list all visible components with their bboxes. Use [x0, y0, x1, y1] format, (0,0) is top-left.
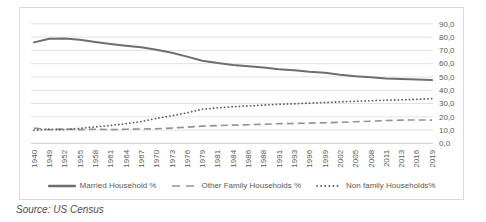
household-composition-line-chart: 90,080,070,060,050,040,030,020,010,00,01…: [20, 8, 463, 199]
source-note: Source: US Census: [16, 204, 104, 215]
x-tick-label: 1955: [76, 149, 85, 167]
x-tick-label: 1991: [275, 149, 284, 167]
x-tick-label: 1970: [152, 149, 161, 167]
x-tick-label: 2002: [336, 149, 345, 167]
series-line-1: [34, 120, 432, 130]
x-tick-label: 1979: [198, 149, 207, 167]
legend-item-married: Married Household %: [48, 181, 157, 190]
legend-label-married: Married Household %: [80, 181, 157, 190]
household-trends-figure: 90,080,070,060,050,040,030,020,010,00,01…: [0, 0, 486, 222]
x-tick-label: 1940: [30, 149, 39, 167]
legend-item-other-family: Other Family Households %: [171, 181, 301, 190]
y-tick-label: 50,0: [439, 73, 455, 82]
legend-label-non-family: Non family Households%: [346, 181, 435, 190]
y-tick-label: 90,0: [439, 20, 455, 29]
x-tick-label: 1973: [168, 149, 177, 167]
x-tick-label: 2016: [412, 149, 421, 167]
x-tick-label: 2019: [428, 149, 437, 167]
x-tick-label: 1964: [122, 149, 131, 167]
x-tick-label: 1981: [213, 149, 222, 167]
y-tick-label: 30,0: [439, 99, 455, 108]
x-tick-label: 1961: [106, 149, 115, 167]
x-tick-label: 1967: [137, 149, 146, 167]
y-tick-label: 40,0: [439, 86, 455, 95]
chart-frame: 90,080,070,060,050,040,030,020,010,00,01…: [19, 7, 464, 200]
x-tick-label: 1958: [91, 149, 100, 167]
x-tick-label: 1986: [244, 149, 253, 167]
y-tick-label: 60,0: [439, 59, 455, 68]
chart-legend: Married Household % Other Family Househo…: [20, 181, 463, 190]
x-tick-label: 1993: [290, 149, 299, 167]
y-tick-label: 70,0: [439, 46, 455, 55]
y-tick-label: 10,0: [439, 126, 455, 135]
y-tick-label: 80,0: [439, 33, 455, 42]
x-tick-label: 1988: [259, 149, 268, 167]
x-tick-label: 1984: [229, 149, 238, 167]
x-tick-label: 2013: [397, 149, 406, 167]
legend-item-non-family: Non family Households%: [316, 181, 435, 190]
legend-label-other-family: Other Family Households %: [201, 181, 301, 190]
y-tick-label: 0,0: [439, 139, 451, 148]
x-tick-label: 1996: [305, 149, 314, 167]
x-tick-label: 1976: [183, 149, 192, 167]
solid-line-swatch-icon: [48, 183, 76, 189]
y-tick-label: 20,0: [439, 113, 455, 122]
dotted-line-swatch-icon: [316, 183, 342, 189]
x-tick-label: 1949: [45, 149, 54, 167]
x-tick-label: 2011: [382, 149, 391, 167]
x-tick-label: 1952: [60, 149, 69, 167]
series-line-0: [34, 38, 432, 80]
x-tick-label: 2008: [367, 149, 376, 167]
dashed-line-swatch-icon: [171, 183, 197, 189]
x-tick-label: 2005: [351, 149, 360, 167]
x-tick-label: 1999: [321, 149, 330, 167]
